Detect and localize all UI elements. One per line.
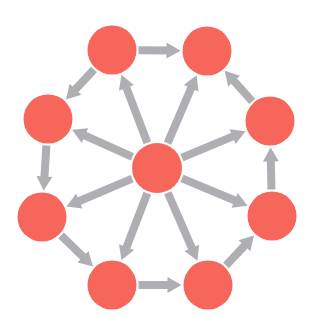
edge-shaft — [126, 87, 147, 143]
edge-arrow-bottom-right-to-right-lower — [226, 235, 254, 265]
edge-arrow-left-lower-to-bottom-left — [61, 235, 93, 266]
edge-arrow-right-upper-to-top-right — [225, 71, 253, 102]
node-right-upper — [246, 97, 295, 146]
edge-arrow-center-to-right-lower — [182, 178, 248, 207]
edge-arrow-top-left-to-top-right — [138, 43, 180, 59]
node-center — [132, 143, 182, 193]
edge-arrow-center-to-top-left — [119, 75, 147, 143]
edge-arrow-center-to-left-lower — [66, 179, 132, 209]
edge-shaft — [226, 245, 245, 266]
arrowhead-icon — [36, 176, 52, 190]
network-diagram — [0, 0, 313, 326]
edge-shaft — [78, 179, 132, 202]
edge-arrow-center-to-top-right — [168, 75, 199, 143]
edge-shaft — [168, 193, 192, 249]
arrowhead-icon — [166, 43, 180, 59]
edge-arrow-center-to-bottom-left — [119, 193, 147, 260]
edge-arrow-center-to-left-upper — [72, 128, 132, 157]
edge-arrow-right-lower-to-right-upper — [263, 147, 279, 189]
edge-shaft — [233, 80, 252, 101]
edge-arrow-center-to-bottom-right — [168, 193, 199, 261]
edge-shaft — [84, 135, 132, 157]
node-top-left — [88, 26, 137, 75]
edge-shaft — [75, 69, 94, 90]
node-left-upper — [24, 95, 73, 144]
nodes-layer — [18, 26, 297, 310]
edge-arrow-bottom-left-to-bottom-right — [139, 277, 182, 293]
node-bottom-right — [184, 261, 233, 310]
edge-arrow-top-left-to-left-upper — [66, 69, 94, 99]
arrowhead-icon — [168, 277, 182, 293]
edge-shaft — [182, 136, 234, 157]
edge-shaft — [182, 178, 236, 200]
edge-arrow-left-upper-to-left-lower — [36, 145, 52, 190]
edge-shaft — [168, 87, 192, 143]
node-top-right — [183, 27, 232, 76]
edge-arrow-center-to-right-upper — [182, 129, 246, 157]
edge-shaft — [271, 160, 272, 189]
node-bottom-left — [88, 261, 137, 310]
node-left-lower — [18, 193, 67, 242]
edge-shaft — [126, 193, 147, 248]
arrowhead-icon — [263, 147, 279, 161]
edge-shaft — [44, 145, 46, 177]
node-right-lower — [248, 192, 297, 241]
edge-shaft — [61, 235, 84, 257]
